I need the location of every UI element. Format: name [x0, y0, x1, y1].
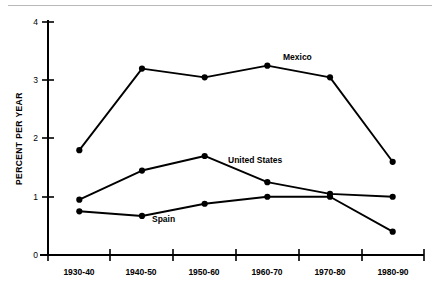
- x-tick-label-1950-60: 1950-60: [188, 267, 219, 277]
- y-tick-label-0: 0: [33, 250, 38, 260]
- data-point-united-states-1960-70[interactable]: [264, 179, 270, 185]
- y-tick-label-4: 4: [33, 17, 38, 27]
- line-chart-plot: 4 3 2 1 0 PERCENT PER YEAR 1930-40 1940-…: [0, 0, 440, 287]
- x-tick-label-1960-70: 1960-70: [251, 267, 282, 277]
- y-tick-label-1: 1: [33, 192, 38, 202]
- x-tick-label-1930-40: 1930-40: [63, 267, 94, 277]
- data-point-united-states-1980-90[interactable]: [390, 194, 396, 200]
- y-axis-title: PERCENT PER YEAR: [14, 92, 24, 185]
- series-layer: [76, 63, 396, 235]
- data-point-mexico-1950-60[interactable]: [202, 74, 208, 80]
- data-point-mexico-1930-40[interactable]: [76, 147, 82, 153]
- data-point-spain-1980-90[interactable]: [390, 229, 396, 235]
- series-label-spain: Spain: [152, 214, 175, 224]
- chart-figure: 4 3 2 1 0 PERCENT PER YEAR 1930-40 1940-…: [0, 0, 440, 287]
- data-point-united-states-1940-50[interactable]: [139, 167, 145, 173]
- series-label-united-states: United States: [228, 155, 283, 165]
- data-point-spain-1960-70[interactable]: [264, 194, 270, 200]
- data-point-mexico-1940-50[interactable]: [139, 66, 145, 72]
- data-point-mexico-1980-90[interactable]: [390, 159, 396, 165]
- data-point-mexico-1960-70[interactable]: [264, 63, 270, 69]
- data-point-mexico-1970-80[interactable]: [327, 74, 333, 80]
- x-tick-label-1980-90: 1980-90: [377, 267, 408, 277]
- data-point-spain-1950-60[interactable]: [202, 201, 208, 207]
- y-tick-label-2: 2: [33, 133, 38, 143]
- x-tick-label-1970-80: 1970-80: [314, 267, 345, 277]
- data-point-spain-1970-80[interactable]: [327, 194, 333, 200]
- data-point-spain-1930-40[interactable]: [76, 208, 82, 214]
- data-point-spain-1940-50[interactable]: [139, 213, 145, 219]
- data-point-united-states-1950-60[interactable]: [202, 153, 208, 159]
- data-point-united-states-1930-40[interactable]: [76, 197, 82, 203]
- series-line-mexico: [79, 66, 392, 162]
- y-tick-label-3: 3: [33, 75, 38, 85]
- series-label-mexico: Mexico: [283, 52, 312, 62]
- x-tick-label-1940-50: 1940-50: [125, 267, 156, 277]
- series-line-spain: [79, 197, 392, 232]
